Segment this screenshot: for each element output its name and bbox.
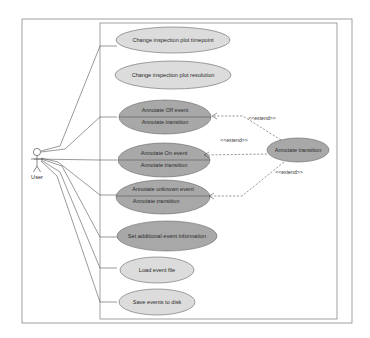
use-case-annotate-off[interactable]: Annotate Off event Annotate transition — [119, 100, 211, 134]
actor-label: User — [31, 174, 43, 180]
extend-stereotype-on: <<extend>> — [220, 137, 248, 143]
use-case-change-timepoint[interactable]: Change inspection plot timepoint — [116, 27, 230, 53]
extension-point-label: Annotate transition — [142, 119, 189, 125]
use-case-label: Annotate unknown event — [132, 186, 194, 192]
association-uc5 — [41, 158, 117, 195]
extension-point-label: Annotate transition — [133, 198, 180, 204]
use-case-load-event-file[interactable]: Load event file — [120, 257, 194, 283]
use-case-label: Save events to disk — [133, 299, 182, 305]
use-case-annotate-on[interactable]: Annotate On event Annotate transition — [118, 143, 210, 177]
use-case-set-additional-info[interactable]: Set additional event information — [117, 221, 217, 251]
use-case-label: Change inspection plot resolution — [132, 72, 215, 78]
associations — [34, 46, 117, 302]
use-case-label: Load event file — [139, 267, 175, 273]
extend-line-unknown — [210, 162, 284, 196]
actor-user[interactable]: User — [31, 148, 43, 180]
extend-stereotype-off: <<extend>> — [248, 115, 276, 121]
arrowheads — [204, 113, 217, 199]
association-uc1 — [41, 46, 117, 151]
use-case-save-events[interactable]: Save events to disk — [119, 289, 195, 315]
association-uc8 — [41, 161, 117, 302]
use-case-label: Annotate On event — [141, 150, 188, 156]
use-case-label: Change inspection plot timepoint — [132, 37, 214, 43]
use-case-change-resolution[interactable]: Change inspection plot resolution — [115, 61, 231, 89]
use-case-annotate-transition[interactable]: Annotate transition — [267, 138, 329, 162]
use-case-label: Annotate Off event — [142, 107, 189, 113]
extension-point-label: Annotate transition — [141, 162, 188, 168]
use-case-label: Annotate transition — [275, 147, 322, 153]
extend-stereotype-unknown: <<extend>> — [275, 169, 303, 175]
use-case-label: Set additional event information — [128, 233, 206, 239]
association-uc2-line — [41, 117, 117, 152]
extend-line-on — [205, 154, 267, 155]
association-uc7 — [41, 160, 117, 268]
use-case-diagram: User Change inspection plot timepoint Ch… — [0, 0, 370, 338]
association-uc6 — [41, 159, 117, 237]
use-case-annotate-unknown[interactable]: Annotate unknown event Annotate transiti… — [116, 180, 210, 214]
